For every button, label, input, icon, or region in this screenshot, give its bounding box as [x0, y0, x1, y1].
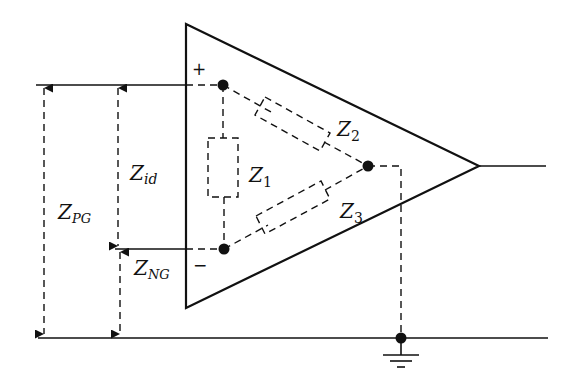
label-zpg: ZPG	[57, 200, 91, 226]
minus-symbol: −	[193, 255, 207, 275]
minus-node	[219, 244, 230, 255]
common-node	[363, 161, 374, 172]
op-amp-impedance-diagram: + − Z1 Z2 Z3 Zi	[0, 0, 575, 384]
ground-icon	[383, 338, 419, 367]
plus-node	[218, 80, 229, 91]
z1-resistor	[208, 85, 238, 249]
plus-symbol: +	[192, 59, 206, 79]
common-to-ground-wire	[368, 166, 401, 338]
label-zng: ZNG	[133, 256, 170, 282]
op-amp-triangle	[186, 24, 479, 308]
label-z2: Z2	[336, 117, 360, 144]
label-z3: Z3	[339, 199, 363, 226]
label-zid: Zid	[129, 161, 157, 187]
label-z1: Z1	[248, 163, 272, 190]
